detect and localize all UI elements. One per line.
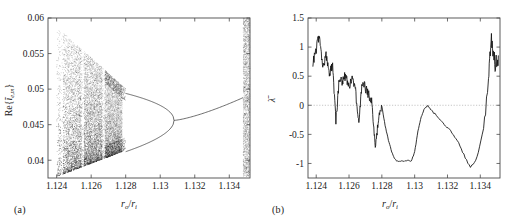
svg-text:1.124: 1.124 xyxy=(306,181,328,191)
panel-a-caption: (a) xyxy=(14,204,26,215)
panel-a-x-axis-title: ro/ri xyxy=(121,198,137,211)
panel-b-caption: (b) xyxy=(272,204,284,215)
svg-text:0.5: 0.5 xyxy=(292,71,304,81)
svg-text:0.05: 0.05 xyxy=(27,84,44,94)
svg-text:-0.5: -0.5 xyxy=(289,130,304,140)
panel-a-y-axis-title: Re{ĩe,m} xyxy=(3,84,15,117)
svg-text:1.126: 1.126 xyxy=(80,181,102,191)
svg-text:0.055: 0.055 xyxy=(23,49,45,59)
panel-a-bifurcation-diagram: 1.1241.1261.1281.131.1321.134 0.040.0450… xyxy=(0,0,258,218)
svg-text:1.128: 1.128 xyxy=(115,181,137,191)
svg-text:0.045: 0.045 xyxy=(23,120,45,130)
svg-text:1.5: 1.5 xyxy=(292,13,304,23)
svg-text:1.132: 1.132 xyxy=(437,181,459,191)
panel-b-y-axis-title: λ̄ xyxy=(266,95,277,103)
svg-text:ro/ri: ro/ri xyxy=(121,198,137,211)
panel-b-x-tick-labels: 1.1241.1261.1281.131.1321.134 xyxy=(306,181,492,191)
bifurcation-scatter-points xyxy=(56,18,250,177)
svg-text:1.132: 1.132 xyxy=(184,181,206,191)
svg-text:1: 1 xyxy=(299,42,304,52)
svg-text:1.13: 1.13 xyxy=(406,181,423,191)
panel-b-y-tick-labels: -1-0.500.511.5 xyxy=(289,13,304,168)
svg-text:-1: -1 xyxy=(296,159,304,169)
panel-b-plot: 1.1241.1261.1281.131.1321.134 -1-0.500.5… xyxy=(258,0,516,218)
svg-text:0: 0 xyxy=(299,101,304,111)
svg-text:Re{ĩe,m}: Re{ĩe,m} xyxy=(3,84,15,117)
svg-text:0.04: 0.04 xyxy=(27,156,44,166)
svg-text:1.134: 1.134 xyxy=(470,181,492,191)
panel-b-x-axis-title: ro/ri xyxy=(382,198,398,211)
figure-container: 1.1241.1261.1281.131.1321.134 0.040.0450… xyxy=(0,0,516,218)
panel-a-plot: 1.1241.1261.1281.131.1321.134 0.040.0450… xyxy=(0,0,258,218)
panel-a-axes-frame xyxy=(48,18,250,178)
panel-a-x-tick-labels: 1.1241.1261.1281.131.1321.134 xyxy=(46,181,240,191)
panel-b-axes-frame xyxy=(308,18,500,178)
svg-text:1.124: 1.124 xyxy=(46,181,68,191)
svg-text:0.06: 0.06 xyxy=(27,13,44,23)
svg-text:1.134: 1.134 xyxy=(219,181,241,191)
bifurcation-branches xyxy=(126,93,243,151)
panel-a-y-tick-labels: 0.040.0450.050.0550.06 xyxy=(23,13,45,165)
svg-text:1.128: 1.128 xyxy=(371,181,393,191)
svg-text:1.13: 1.13 xyxy=(152,181,169,191)
svg-text:ro/ri: ro/ri xyxy=(382,198,398,211)
panel-b-lyapunov-plot: 1.1241.1261.1281.131.1321.134 -1-0.500.5… xyxy=(258,0,516,218)
lyapunov-exponent-curve xyxy=(313,33,498,167)
svg-text:λ̄: λ̄ xyxy=(266,95,277,103)
svg-text:1.126: 1.126 xyxy=(338,181,360,191)
